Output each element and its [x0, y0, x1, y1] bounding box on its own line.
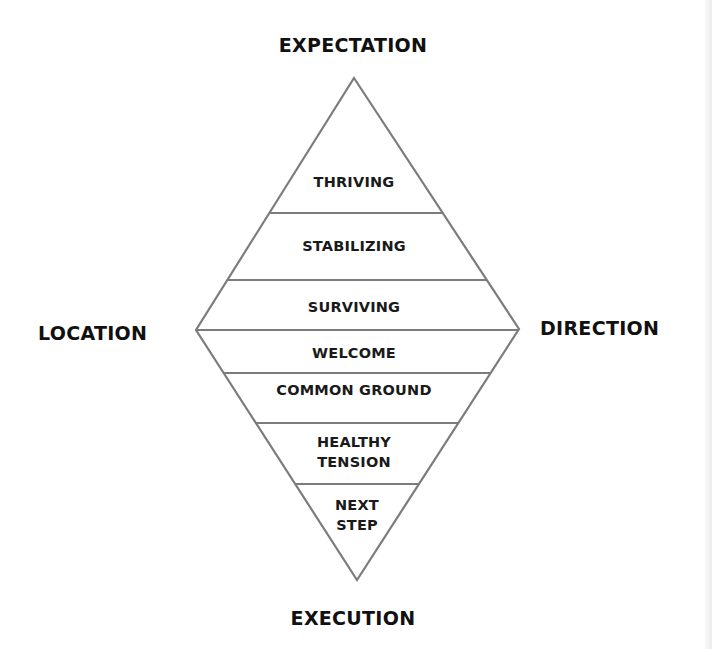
label-direction: DIRECTION — [540, 317, 659, 339]
label-expectation: EXPECTATION — [0, 34, 712, 56]
band-healthy-tension-line1: HEALTHY — [254, 432, 454, 452]
label-execution: EXECUTION — [0, 607, 712, 629]
page-edge-strip — [705, 0, 712, 649]
band-welcome: WELCOME — [254, 343, 454, 363]
band-stabilizing: STABILIZING — [254, 236, 454, 256]
band-next-step-line1: NEXT — [257, 495, 457, 515]
band-surviving: SURVIVING — [254, 297, 454, 317]
band-healthy-tension-line2: TENSION — [254, 452, 454, 472]
label-location: LOCATION — [38, 322, 147, 344]
diamond-diagram: EXPECTATION LOCATION DIRECTION EXECUTION… — [0, 0, 712, 649]
band-thriving: THRIVING — [254, 172, 454, 192]
band-next-step-line2: STEP — [257, 515, 457, 535]
band-common-ground: COMMON GROUND — [234, 380, 474, 400]
